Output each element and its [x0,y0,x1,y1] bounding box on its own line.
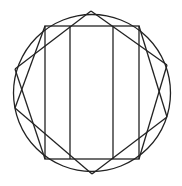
diagonal-line-3 [15,108,92,174]
diagram-svg [0,0,182,186]
diagonal-line-6 [15,69,45,159]
diagonal-line-2 [91,11,167,65]
diagonal-line-7 [139,26,167,117]
outer-rectangle [45,26,139,159]
geometric-diagram [0,0,182,186]
diagonal-line-5 [15,26,45,108]
outer-circle [14,15,171,172]
diagonal-line-4 [92,117,167,174]
diagonal-line-8 [139,65,167,159]
inner-vertical-lines [70,26,113,159]
diagonal-line-1 [15,11,91,69]
